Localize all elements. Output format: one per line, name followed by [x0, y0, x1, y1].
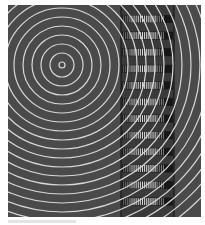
illusion-figure [8, 5, 201, 217]
illusion-canvas [8, 5, 201, 217]
stripe-row [122, 164, 173, 172]
caption-bar [8, 220, 76, 223]
stripe-row [122, 48, 173, 56]
stripe-row [122, 81, 173, 89]
stripe-row [122, 65, 173, 73]
